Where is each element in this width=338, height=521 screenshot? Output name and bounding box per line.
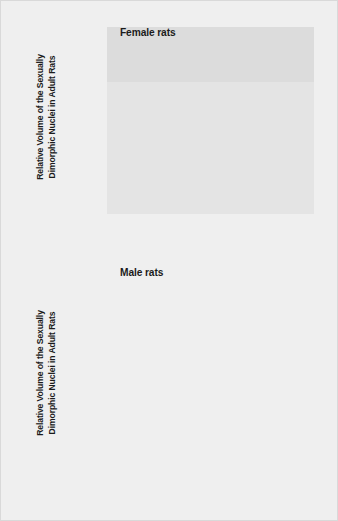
panel-caption-male: Male rats (120, 267, 163, 278)
chart-male-rats: Relative Volume of the Sexually Dimorphi… (1, 267, 338, 521)
plot-area-female: Female rats (107, 27, 314, 214)
chart-female-rats: Relative Volume of the Sexually Dimorphi… (1, 1, 338, 267)
figure-container: Relative Volume of the Sexually Dimorphi… (0, 0, 338, 521)
panel-caption-female: Female rats (120, 27, 176, 38)
y-axis-title-female: Relative Volume of the Sexually Dimorphi… (27, 23, 65, 211)
y-axis-title-male: Relative Volume of the Sexually Dimorphi… (27, 279, 65, 467)
